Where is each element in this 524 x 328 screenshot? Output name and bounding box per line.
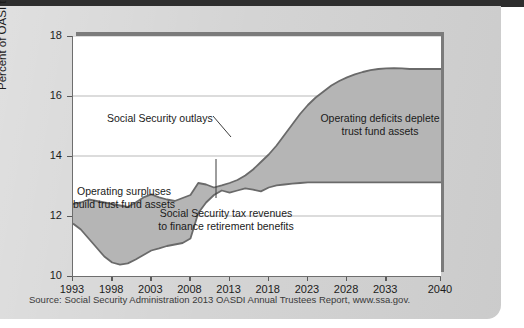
annotation-tax-revenues-line-1: Social Security tax revenues: [146, 207, 306, 220]
annotation-social-security-outlays: Social Security outlays: [107, 112, 213, 125]
plot-area: [72, 36, 441, 277]
annotation-operating-deficits: Operating deficits deplete trust fund as…: [305, 112, 455, 139]
source-note: Source: Social Security Administration 2…: [29, 294, 410, 305]
annotation-operating-deficits-line-1: Operating deficits deplete: [305, 112, 455, 125]
annotation-operating-deficits-line-2: trust fund assets: [305, 125, 455, 138]
y-axis-tick-label: 14: [38, 149, 62, 161]
chart-svg: [73, 36, 441, 276]
annotation-operating-surpluses-line-1: Operating surpluses: [64, 185, 184, 198]
y-axis-tick-label: 12: [38, 209, 62, 221]
y-axis-tick-label: 18: [38, 29, 62, 41]
annotation-tax-revenues-line-2: to finance retirement benefits: [146, 220, 306, 233]
x-axis-tick-label: 2040: [420, 283, 460, 295]
y-axis-tick-label: 10: [38, 269, 62, 281]
figure-card: Percent of OASI taxable payroll 10121416…: [0, 6, 501, 319]
y-axis-title: Percent of OASI taxable payroll: [0, 0, 8, 90]
y-axis-tick-label: 16: [38, 89, 62, 101]
figure-root: Percent of OASI taxable payroll 10121416…: [0, 0, 524, 328]
annotation-tax-revenues: Social Security tax revenues to finance …: [146, 207, 306, 234]
